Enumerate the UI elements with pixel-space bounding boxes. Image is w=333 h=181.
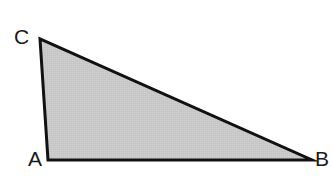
triangle-shape — [40, 39, 312, 160]
vertex-label-b: B — [315, 148, 329, 169]
vertex-label-c: C — [14, 26, 29, 47]
triangle-svg-canvas — [0, 0, 333, 181]
vertex-label-a: A — [28, 148, 42, 169]
triangle-figure: C A B — [0, 0, 333, 181]
